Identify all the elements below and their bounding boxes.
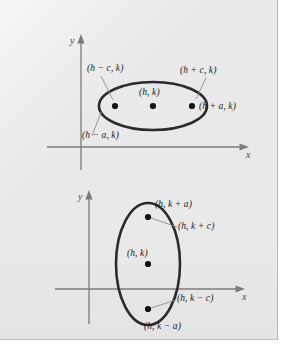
top-center-label: (h, k) xyxy=(139,88,160,98)
bottom-y-axis-arrowhead xyxy=(85,190,92,200)
top-right-focus-point xyxy=(189,103,195,109)
bottom-top-vertex-label: (h, k + a) xyxy=(155,200,192,210)
top-right-vertex-label: (h + a, k) xyxy=(199,102,236,112)
top-center-point xyxy=(150,103,156,109)
bottom-bottom-focus-point xyxy=(145,306,151,312)
top-right-focus-label: (h + c, k) xyxy=(180,66,216,76)
bottom-figure-vertical-ellipse: y x (h, k + a) (h, k + c) (h, k) (h, k −… xyxy=(0,176,278,346)
top-left-focus-label: (h − c, k) xyxy=(87,64,123,74)
bottom-bottom-vertex-label: (h, k − a) xyxy=(144,322,181,332)
bottom-bottom-focus-label: (h, k − c) xyxy=(177,294,213,304)
bottom-top-focus-point xyxy=(145,214,151,220)
bottom-top-focus-label: (h, k + c) xyxy=(178,222,214,232)
top-left-vertex-label: (h − a, k) xyxy=(82,131,119,141)
top-y-axis-label: y xyxy=(70,36,74,46)
top-left-focus-point xyxy=(112,103,118,109)
bottom-figure-svg xyxy=(0,176,278,346)
top-figure-horizontal-ellipse: y x (h − c, k) (h + c, k) (h, k) (h + a,… xyxy=(0,0,278,180)
top-y-axis-arrowhead xyxy=(77,34,84,44)
figure-page: y x (h − c, k) (h + c, k) (h, k) (h + a,… xyxy=(0,0,290,356)
bottom-center-label: (h, k) xyxy=(127,249,148,259)
top-x-axis-label: x xyxy=(246,150,250,160)
bottom-x-axis-label: x xyxy=(242,292,246,302)
bottom-y-axis-label: y xyxy=(78,192,82,202)
bottom-center-point xyxy=(145,261,151,267)
